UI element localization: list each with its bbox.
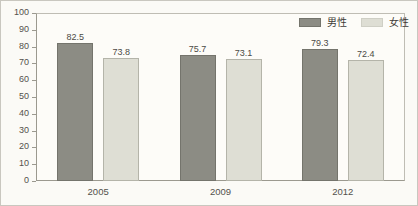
legend-label-female: 女性 xyxy=(389,17,409,28)
y-axis-tick-label: 60 xyxy=(19,74,29,84)
y-axis-tick-label: 90 xyxy=(19,24,29,34)
x-axis-tick-label: 2012 xyxy=(332,186,353,197)
x-axis-tick-label: 2009 xyxy=(210,186,231,197)
bar-value-label: 72.4 xyxy=(357,49,375,59)
bar[interactable]: 73.1 xyxy=(226,59,262,181)
y-axis-tick-label: 80 xyxy=(19,41,29,51)
legend-label-male: 男性 xyxy=(327,17,347,28)
y-axis-tick-label: 70 xyxy=(19,57,29,67)
bar-value-label: 75.7 xyxy=(189,44,207,54)
legend-item-female[interactable]: 女性 xyxy=(361,17,409,28)
x-axis: 200520092012 xyxy=(37,183,404,203)
bars-layer: 82.573.875.773.179.372.4 xyxy=(37,14,404,181)
bar-value-label: 73.1 xyxy=(235,48,253,58)
legend-swatch-male-icon xyxy=(299,18,321,27)
chart-legend: 男性 女性 xyxy=(299,17,409,28)
y-axis: 1009080706050403020100 xyxy=(1,13,36,182)
legend-swatch-female-icon xyxy=(361,18,383,27)
y-axis-tick-label: 100 xyxy=(14,7,29,17)
bar-group: 82.573.8 xyxy=(57,14,139,181)
y-axis-tick-label: 0 xyxy=(24,175,29,185)
y-axis-tick-label: 30 xyxy=(19,125,29,135)
y-axis-tick-label: 40 xyxy=(19,108,29,118)
y-axis-tick-mark xyxy=(32,181,36,182)
x-axis-tick-label: 2005 xyxy=(88,186,109,197)
bar[interactable]: 73.8 xyxy=(103,58,139,181)
y-axis-tick-label: 10 xyxy=(19,158,29,168)
bar[interactable]: 72.4 xyxy=(348,60,384,181)
bar[interactable]: 82.5 xyxy=(57,43,93,181)
legend-item-male[interactable]: 男性 xyxy=(299,17,347,28)
bar-value-label: 82.5 xyxy=(66,32,84,42)
y-axis-tick-label: 50 xyxy=(19,91,29,101)
bar-group: 75.773.1 xyxy=(180,14,262,181)
bar-chart-figure: 1009080706050403020100 82.573.875.773.17… xyxy=(0,0,418,206)
bar[interactable]: 75.7 xyxy=(180,55,216,181)
y-axis-tick-label: 20 xyxy=(19,141,29,151)
bar-group: 79.372.4 xyxy=(302,14,384,181)
bar-value-label: 73.8 xyxy=(112,47,130,57)
bar-value-label: 79.3 xyxy=(311,38,329,48)
bar[interactable]: 79.3 xyxy=(302,49,338,181)
